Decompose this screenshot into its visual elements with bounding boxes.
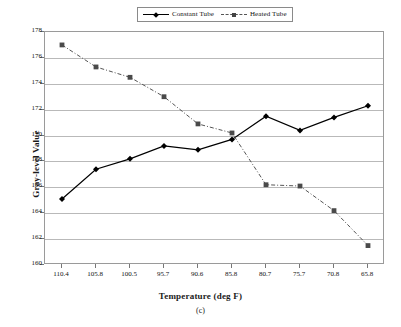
plot-area <box>44 31 384 264</box>
y-tick-label: 168 <box>18 156 42 163</box>
data-point-diamond <box>127 156 133 162</box>
data-point-diamond <box>297 127 303 133</box>
data-point-square <box>264 182 269 187</box>
data-point-diamond <box>195 147 201 153</box>
data-point-square <box>196 122 201 127</box>
series-line <box>62 106 368 199</box>
x-tick-mark <box>333 264 334 268</box>
data-point-diamond <box>365 103 371 109</box>
x-tick-label: 65.8 <box>347 271 387 278</box>
figure-caption: (c) <box>0 306 401 315</box>
y-tick-label: 176 <box>18 53 42 60</box>
series-heated-tube <box>60 43 371 248</box>
legend-label-heated-tube: Heated Tube <box>250 11 287 18</box>
data-point-square <box>366 243 371 248</box>
legend-swatch-constant-tube <box>143 10 169 19</box>
y-tick-label: 174 <box>18 79 42 86</box>
x-tick-mark <box>163 264 164 268</box>
x-tick-mark <box>197 264 198 268</box>
chart-figure: Constant Tube Heated Tube Gray-level Val… <box>0 0 401 327</box>
legend-label-constant-tube: Constant Tube <box>172 11 214 18</box>
y-tick-label: 170 <box>18 131 42 138</box>
square-marker-icon <box>232 13 236 17</box>
x-axis-title: Temperature (deg F) <box>0 291 401 301</box>
y-tick-label: 164 <box>18 208 42 215</box>
y-tick-label: 172 <box>18 105 42 112</box>
data-point-diamond <box>331 114 337 120</box>
y-tick-label: 166 <box>18 182 42 189</box>
data-point-square <box>128 75 133 80</box>
data-point-square <box>162 94 167 99</box>
data-point-square <box>332 208 337 213</box>
x-tick-mark <box>61 264 62 268</box>
data-point-diamond <box>161 143 167 149</box>
legend-entry-constant-tube: Constant Tube <box>143 8 214 21</box>
x-tick-mark <box>129 264 130 268</box>
x-tick-mark <box>231 264 232 268</box>
series-layer <box>45 32 385 265</box>
x-tick-mark <box>265 264 266 268</box>
y-tick-label: 160 <box>18 260 42 267</box>
x-tick-mark <box>299 264 300 268</box>
series-line <box>62 45 368 246</box>
data-point-square <box>230 131 235 136</box>
y-tick-label: 178 <box>18 27 42 34</box>
data-point-square <box>94 65 99 70</box>
legend-entry-heated-tube: Heated Tube <box>221 8 287 21</box>
chart-legend: Constant Tube Heated Tube <box>137 7 293 22</box>
x-tick-mark <box>367 264 368 268</box>
x-tick-mark <box>95 264 96 268</box>
series-constant-tube <box>59 103 371 202</box>
legend-swatch-heated-tube <box>221 10 247 19</box>
y-tick-label: 162 <box>18 234 42 241</box>
data-point-square <box>60 43 65 48</box>
data-point-square <box>298 184 303 189</box>
diamond-marker-icon <box>153 12 159 18</box>
